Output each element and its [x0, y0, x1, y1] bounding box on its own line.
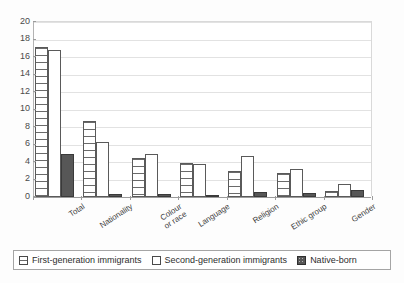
y-tick-label: 8	[4, 122, 30, 131]
x-tick-mark	[324, 196, 325, 200]
legend-label: First-generation immigrants	[32, 255, 142, 265]
y-tick-mark	[33, 56, 36, 57]
legend-label: Second-generation immigrants	[165, 255, 288, 265]
bar-group	[276, 22, 324, 197]
bar-group	[228, 22, 276, 197]
bar-chart-figure: 02468101214161820 TotalNationalityColour…	[0, 0, 404, 283]
x-tick-mark	[372, 196, 373, 200]
x-tick-label: Religion	[229, 202, 280, 239]
x-tick-label: Colour or race	[133, 202, 188, 247]
x-tick-label: Nationality	[84, 202, 135, 239]
y-tick-mark	[33, 74, 36, 75]
bar	[96, 142, 109, 197]
x-tick-mark	[227, 196, 228, 200]
y-tick-mark	[33, 91, 36, 92]
bar	[132, 158, 145, 197]
y-tick-label: 10	[4, 104, 30, 113]
legend-swatch-icon	[152, 256, 161, 265]
y-tick-label: 6	[4, 139, 30, 148]
bar	[180, 163, 193, 197]
bar	[83, 121, 96, 197]
plot-area	[33, 21, 372, 196]
plot-area-wrapper	[33, 21, 372, 196]
y-tick-mark	[33, 21, 36, 22]
legend-item[interactable]: First-generation immigrants	[19, 255, 142, 265]
y-tick-label: 20	[4, 17, 30, 26]
bar-group	[131, 22, 179, 197]
y-tick-label: 14	[4, 69, 30, 78]
bar	[277, 173, 290, 197]
y-tick-mark	[33, 179, 36, 180]
y-tick-label: 4	[4, 157, 30, 166]
y-tick-label: 16	[4, 52, 30, 61]
bar-group	[34, 22, 82, 197]
x-axis-labels: TotalNationalityColour or raceLanguageRe…	[33, 196, 372, 244]
x-tick-label: Gender	[326, 202, 377, 239]
y-axis: 02468101214161820	[0, 21, 30, 196]
bar	[290, 169, 303, 197]
legend-swatch-icon	[19, 256, 28, 265]
bar-group	[179, 22, 227, 197]
x-tick-mark	[178, 196, 179, 200]
bars-layer	[34, 22, 373, 197]
y-tick-mark	[33, 126, 36, 127]
y-tick-mark	[33, 144, 36, 145]
y-tick-mark	[33, 161, 36, 162]
x-tick-label: Language	[181, 202, 232, 239]
legend-swatch-icon	[297, 256, 306, 265]
bar	[35, 47, 48, 197]
y-tick-label: 2	[4, 174, 30, 183]
y-tick-label: 12	[4, 87, 30, 96]
y-tick-mark	[33, 196, 36, 197]
bar	[61, 154, 74, 197]
bar	[48, 50, 61, 197]
y-tick-mark	[33, 109, 36, 110]
legend-label: Native-born	[310, 255, 357, 265]
chart-legend: First-generation immigrantsSecond-genera…	[13, 250, 391, 270]
x-tick-label: Total	[36, 202, 87, 239]
bar-group	[325, 22, 373, 197]
legend-item[interactable]: Second-generation immigrants	[152, 255, 288, 265]
bar	[193, 164, 206, 197]
x-tick-mark	[275, 196, 276, 200]
x-tick-mark	[81, 196, 82, 200]
y-tick-mark	[33, 39, 36, 40]
y-tick-label: 18	[4, 34, 30, 43]
bar	[145, 154, 158, 197]
bar	[241, 156, 254, 197]
bar	[228, 171, 241, 197]
legend-item[interactable]: Native-born	[297, 255, 357, 265]
y-tick-label: 0	[4, 192, 30, 201]
x-tick-label: Ethic group	[278, 202, 329, 239]
x-tick-mark	[130, 196, 131, 200]
bar-group	[82, 22, 130, 197]
